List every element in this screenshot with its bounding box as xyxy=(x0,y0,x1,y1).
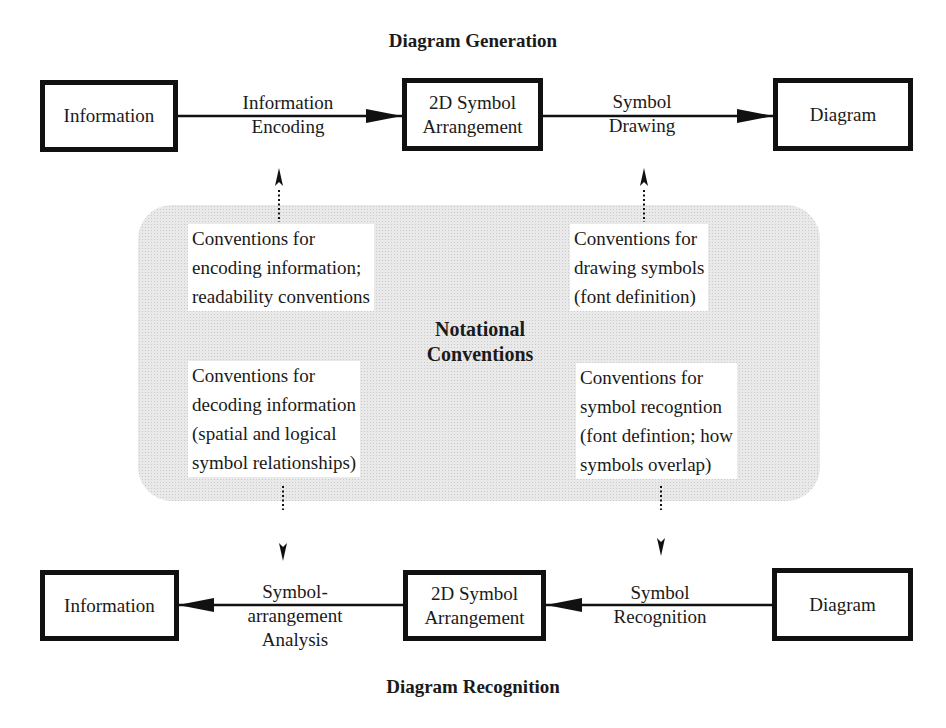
conv-line: encoding information; xyxy=(192,253,370,282)
label-line: Symbol xyxy=(562,90,722,114)
conv-line: symbols overlap) xyxy=(580,450,733,479)
conv-line: (spatial and logical xyxy=(192,419,356,448)
box-label: Diagram xyxy=(809,593,875,617)
conv-line: Conventions for xyxy=(580,363,733,392)
generation-diagram-box: Diagram xyxy=(773,78,913,151)
title-line: Notational xyxy=(400,317,560,342)
recognition-diagram-box: Diagram xyxy=(772,568,913,641)
conv-line: Conventions for xyxy=(574,224,704,253)
conventions-drawing: Conventions for drawing symbols (font de… xyxy=(570,224,708,311)
diagram-recognition-title: Diagram Recognition xyxy=(0,676,946,698)
arrowhead-up-encoding xyxy=(275,168,283,186)
symbol-arrangement-analysis-label: Symbol- arrangement Analysis xyxy=(195,580,395,652)
conv-line: readability conventions xyxy=(192,282,370,311)
conv-line: symbol relationships) xyxy=(192,448,356,477)
generation-arrangement-box: 2D Symbol Arrangement xyxy=(402,78,543,151)
label-line: Encoding xyxy=(188,115,388,139)
conv-line: (font definition) xyxy=(574,282,704,311)
label-line: Symbol xyxy=(580,581,740,605)
diagram-generation-title: Diagram Generation xyxy=(0,30,946,52)
conv-line: symbol recogntion xyxy=(580,392,733,421)
notational-conventions-title: Notational Conventions xyxy=(400,317,560,367)
arrowhead-up-drawing xyxy=(640,168,648,186)
label-line: Symbol- xyxy=(195,580,395,604)
label-line: Drawing xyxy=(562,114,722,138)
box-label: 2D Symbol xyxy=(431,582,518,606)
symbol-recognition-label: Symbol Recognition xyxy=(580,581,740,629)
recognition-arrangement-box: 2D Symbol Arrangement xyxy=(403,570,546,641)
recognition-information-box: Information xyxy=(40,570,179,641)
box-label: Arrangement xyxy=(424,606,524,630)
generation-information-box: Information xyxy=(40,80,178,152)
box-label: Information xyxy=(64,104,155,128)
label-line: Analysis xyxy=(195,628,395,652)
box-label: Diagram xyxy=(810,103,876,127)
conv-line: drawing symbols xyxy=(574,253,704,282)
conventions-recognition: Conventions for symbol recogntion (font … xyxy=(576,363,737,479)
conventions-decoding: Conventions for decoding information (sp… xyxy=(188,361,360,477)
label-line: Information xyxy=(188,91,388,115)
arrowhead-down-recognition xyxy=(657,538,665,556)
symbol-drawing-label: Symbol Drawing xyxy=(562,90,722,138)
conv-line: decoding information xyxy=(192,390,356,419)
conventions-encoding: Conventions for encoding information; re… xyxy=(188,224,374,311)
box-label: Arrangement xyxy=(422,115,522,139)
title-line: Conventions xyxy=(400,342,560,367)
arrowhead-down-decoding xyxy=(279,543,287,561)
label-line: arrangement xyxy=(195,604,395,628)
conv-line: (font defintion; how xyxy=(580,421,733,450)
label-line: Recognition xyxy=(580,605,740,629)
information-encoding-label: Information Encoding xyxy=(188,91,388,139)
box-label: Information xyxy=(64,594,155,618)
box-label: 2D Symbol xyxy=(429,91,516,115)
conv-line: Conventions for xyxy=(192,224,370,253)
conv-line: Conventions for xyxy=(192,361,356,390)
